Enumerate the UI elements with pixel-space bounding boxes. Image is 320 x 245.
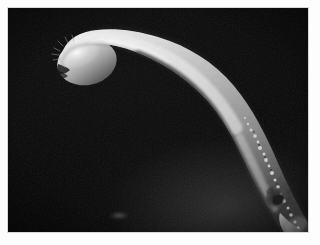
elongated-curved-specimen bbox=[8, 8, 308, 232]
screenshot-root: Specimen macrograph pale worm-like tubul… bbox=[0, 0, 320, 245]
specimen-layer bbox=[8, 8, 308, 232]
photo-frame bbox=[8, 8, 308, 232]
